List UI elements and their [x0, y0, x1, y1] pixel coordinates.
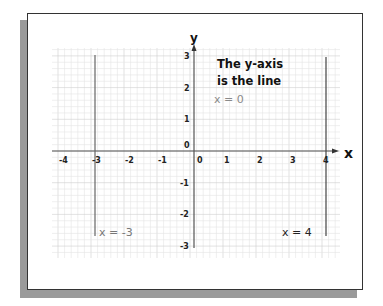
- y-axis-arrow-icon: [192, 44, 197, 51]
- y-tick-label: -1: [180, 179, 189, 188]
- y-tick-label: 0: [184, 141, 190, 150]
- y-tick-label: -3: [180, 242, 189, 251]
- coordinate-grid: y x -4-3-2-101234 3210-1-2-3 The y-axis …: [0, 0, 383, 306]
- y-tick-label: 3: [184, 52, 190, 61]
- x-tick-label: 3: [290, 156, 296, 165]
- x-tick-label: -3: [92, 156, 101, 165]
- x-tick-label: 0: [197, 156, 203, 165]
- x-tick-label: 1: [224, 156, 230, 165]
- y-tick-label: 2: [184, 84, 190, 93]
- y-axis-label: y: [190, 31, 198, 45]
- annotation-line2: is the line: [217, 74, 281, 88]
- annotation-line1: The y-axis: [217, 57, 283, 71]
- x-tick-label: -2: [125, 156, 134, 165]
- annotation-equation: x = 0: [214, 93, 244, 106]
- x-tick-label: 2: [257, 156, 263, 165]
- label-x-4: x = 4: [282, 226, 312, 239]
- y-tick-label: 1: [184, 115, 190, 124]
- x-tick-label: -1: [158, 156, 167, 165]
- x-axis-label: x: [344, 145, 353, 161]
- x-tick-label: -4: [59, 156, 68, 165]
- x-tick-label: 4: [323, 156, 329, 165]
- y-tick-label: -2: [180, 210, 189, 219]
- label-x-neg3: x = -3: [99, 226, 133, 239]
